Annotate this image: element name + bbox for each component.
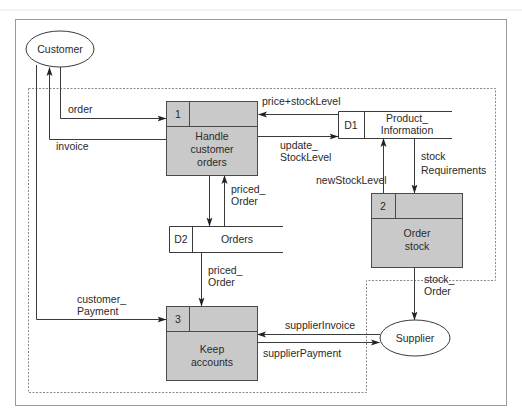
process-3-label-line-1: Keep <box>200 343 225 355</box>
flow-label-priced-order-up-2: Order <box>231 195 258 207</box>
flow-label-stock-order-2: Order <box>424 285 451 297</box>
datastore-d2-code: D2 <box>174 233 188 245</box>
process-2-label-line-2: stock <box>405 240 430 252</box>
entity-supplier[interactable]: Supplier <box>380 320 450 356</box>
process-1-number: 1 <box>175 108 181 120</box>
process-1-label-line-1: Handle <box>195 130 228 142</box>
datastore-d1-product-information[interactable]: D1 Product_ Information <box>338 111 453 139</box>
process-3-keep-accounts[interactable]: 3 Keep accounts <box>167 307 258 381</box>
flow-label-stock-requirements-2: Requirements <box>421 164 486 176</box>
entity-customer[interactable]: Customer <box>26 31 94 67</box>
datastore-d2-orders[interactable]: D2 Orders <box>169 226 284 253</box>
process-3-label-line-2: accounts <box>191 356 233 368</box>
datastore-d1-label-line-2: Information <box>381 124 434 136</box>
flow-label-update-stocklevel-1: update_ <box>280 139 318 151</box>
datastore-d1-label-line-1: Product_ <box>386 112 428 124</box>
data-flow-diagram: order invoice customer_ Payment price+st… <box>0 0 522 417</box>
process-2-number: 2 <box>380 200 386 212</box>
flow-label-price-stocklevel: price+stockLevel <box>262 95 341 107</box>
flow-label-new-stocklevel: newStockLevel <box>316 174 387 186</box>
flow-label-priced-order-down-2: Order <box>208 276 235 288</box>
flow-label-customer-payment-2: Payment <box>77 305 119 317</box>
flow-label-stock-requirements-1: stock <box>421 150 446 162</box>
flow-customer-payment <box>37 65 167 320</box>
datastore-d1-code: D1 <box>344 119 358 131</box>
process-2-order-stock[interactable]: 2 Order stock <box>372 194 463 268</box>
process-1-label-line-3: orders <box>197 156 227 168</box>
entity-supplier-label: Supplier <box>396 332 435 344</box>
flow-label-priced-order-down-1: priced_ <box>208 264 243 276</box>
flow-label-invoice: invoice <box>56 140 89 152</box>
flow-label-order: order <box>68 103 93 115</box>
flow-label-priced-order-up-1: priced_ <box>231 183 266 195</box>
flow-label-customer-payment-1: customer_ <box>77 293 126 305</box>
flow-label-stock-order-1: stock_ <box>424 273 455 285</box>
process-1-handle-customer-orders[interactable]: 1 Handle customer orders <box>167 102 258 176</box>
entity-customer-label: Customer <box>37 43 83 55</box>
process-1-label-line-2: customer <box>190 143 234 155</box>
flow-label-supplier-payment: supplierPayment <box>263 347 341 359</box>
flow-invoice <box>50 68 167 140</box>
datastore-d2-label: Orders <box>221 233 253 245</box>
flow-label-supplier-invoice: supplierInvoice <box>285 319 355 331</box>
flow-label-update-stocklevel-2: StockLevel <box>280 151 331 163</box>
process-2-label-line-1: Order <box>404 227 431 239</box>
process-3-number: 3 <box>175 313 181 325</box>
